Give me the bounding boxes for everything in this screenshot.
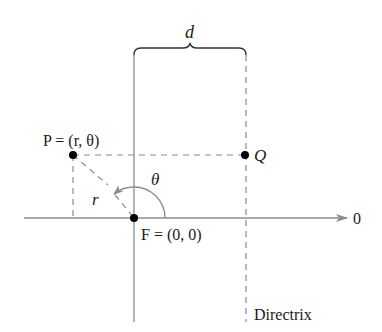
polar-conic-diagram: d P = (r, θ) Q r θ F = (0, 0) 0 Directri…: [0, 0, 382, 332]
angle-arc: [114, 187, 165, 218]
distance-brace: [134, 43, 246, 55]
radius-dashed-line-lower: [115, 195, 134, 218]
focus-label: F = (0, 0): [141, 226, 202, 244]
point-p-label: P = (r, θ): [43, 132, 99, 150]
focus-point: [130, 214, 138, 222]
polar-axis-label: 0: [353, 210, 361, 227]
angle-label: θ: [151, 170, 159, 189]
point-q: [241, 151, 249, 159]
directrix-label: Directrix: [254, 306, 312, 323]
radius-label: r: [92, 190, 99, 209]
point-q-label: Q: [254, 146, 266, 165]
point-p: [69, 151, 77, 159]
radius-dashed-line-upper: [73, 155, 108, 185]
distance-label: d: [185, 22, 195, 42]
